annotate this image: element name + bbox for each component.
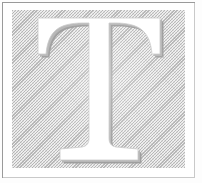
hatched-ground-panel	[12, 10, 185, 168]
letter-face	[38, 18, 160, 160]
initial-letter-t-icon	[12, 10, 185, 168]
scanned-initial-page: T Decorative drop-cap initial letter T, …	[0, 0, 202, 183]
